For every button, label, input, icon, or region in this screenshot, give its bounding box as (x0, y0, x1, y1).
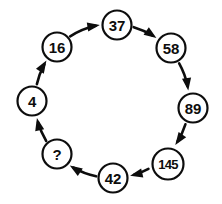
node-16[interactable]: 16 (43, 33, 72, 62)
node-label: 145 (158, 157, 178, 172)
arrowhead-4-to-16 (36, 61, 46, 74)
node-37[interactable]: 37 (103, 11, 132, 40)
arrowhead-89-to-145 (175, 132, 186, 145)
arrowhead-145-to-42 (130, 168, 143, 177)
arrowhead-37-to-58 (144, 27, 157, 38)
node-145[interactable]: 145 (153, 149, 184, 180)
node-label: 16 (49, 39, 65, 56)
cycle-diagram: 37588914542?416 (0, 0, 222, 204)
node-label: 89 (185, 100, 201, 117)
node-label: ? (53, 146, 62, 163)
node-label: 4 (28, 93, 37, 110)
node-89[interactable]: 89 (179, 94, 208, 123)
node-4[interactable]: 4 (18, 87, 47, 116)
arrowhead-58-to-89 (182, 77, 191, 90)
node-58[interactable]: 58 (157, 34, 186, 63)
node-label: 37 (109, 17, 125, 34)
diagram-canvas: 37588914542?416 (0, 0, 222, 204)
arrowhead-16-to-37 (87, 22, 100, 31)
arrowhead-?-to-4 (35, 118, 44, 131)
arrowhead-42-to-? (70, 165, 83, 176)
node-unknown[interactable]: ? (43, 140, 72, 169)
node-label: 58 (163, 40, 179, 57)
node-42[interactable]: 42 (99, 164, 128, 193)
node-label: 42 (105, 170, 121, 187)
nodes-layer: 37588914542?416 (18, 11, 208, 193)
